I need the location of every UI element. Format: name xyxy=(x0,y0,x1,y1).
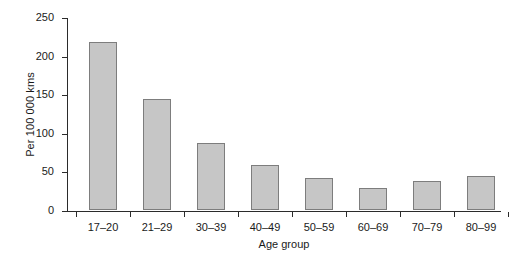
bar xyxy=(197,143,225,210)
x-axis-tick-label: 21–29 xyxy=(130,220,184,234)
x-axis-tick xyxy=(454,212,455,217)
y-axis-line xyxy=(67,18,68,212)
x-axis-tick-label: 60–69 xyxy=(346,220,400,234)
bar xyxy=(305,178,333,210)
y-axis-tick-label: 200 xyxy=(36,50,54,63)
x-axis-title: Age group xyxy=(67,237,501,251)
y-axis-tick: 100 xyxy=(62,134,67,135)
y-axis-tick-label: 250 xyxy=(36,11,54,24)
plot-area: 050100150200250 17–2021–2930–3940–4950–5… xyxy=(67,18,501,211)
bar xyxy=(413,181,441,210)
y-axis-tick: 50 xyxy=(62,172,67,173)
bar-chart: Per 100 000 kms 050100150200250 17–2021–… xyxy=(0,0,521,266)
x-axis-tick xyxy=(508,212,509,217)
x-axis-line xyxy=(67,211,501,212)
bar xyxy=(359,188,387,210)
x-axis-tick-label: 17–20 xyxy=(76,220,130,234)
x-axis-tick xyxy=(400,212,401,217)
bar xyxy=(143,99,171,210)
y-axis-tick: 150 xyxy=(62,95,67,96)
y-axis-title: Per 100 000 kms xyxy=(22,18,38,211)
x-axis-tick xyxy=(76,212,77,217)
y-axis-tick-label: 0 xyxy=(48,204,54,217)
x-axis-tick-label: 70–79 xyxy=(400,220,454,234)
y-axis-tick-label: 150 xyxy=(36,88,54,101)
bar xyxy=(467,176,495,210)
y-axis-tick: 250 xyxy=(62,18,67,19)
bar xyxy=(89,42,117,210)
y-axis-tick: 0 xyxy=(62,211,67,212)
x-axis-tick-label: 30–39 xyxy=(184,220,238,234)
y-axis-tick-label: 50 xyxy=(42,165,54,178)
x-axis-tick xyxy=(238,212,239,217)
x-axis-tick-label: 50–59 xyxy=(292,220,346,234)
bar xyxy=(251,165,279,210)
x-axis-tick xyxy=(184,212,185,217)
x-axis-tick-label: 80–99 xyxy=(454,220,508,234)
x-axis-tick xyxy=(346,212,347,217)
x-axis-tick xyxy=(130,212,131,217)
x-axis-tick-label: 40–49 xyxy=(238,220,292,234)
y-axis-tick-label: 100 xyxy=(36,127,54,140)
x-axis-tick xyxy=(292,212,293,217)
y-axis-tick: 200 xyxy=(62,57,67,58)
